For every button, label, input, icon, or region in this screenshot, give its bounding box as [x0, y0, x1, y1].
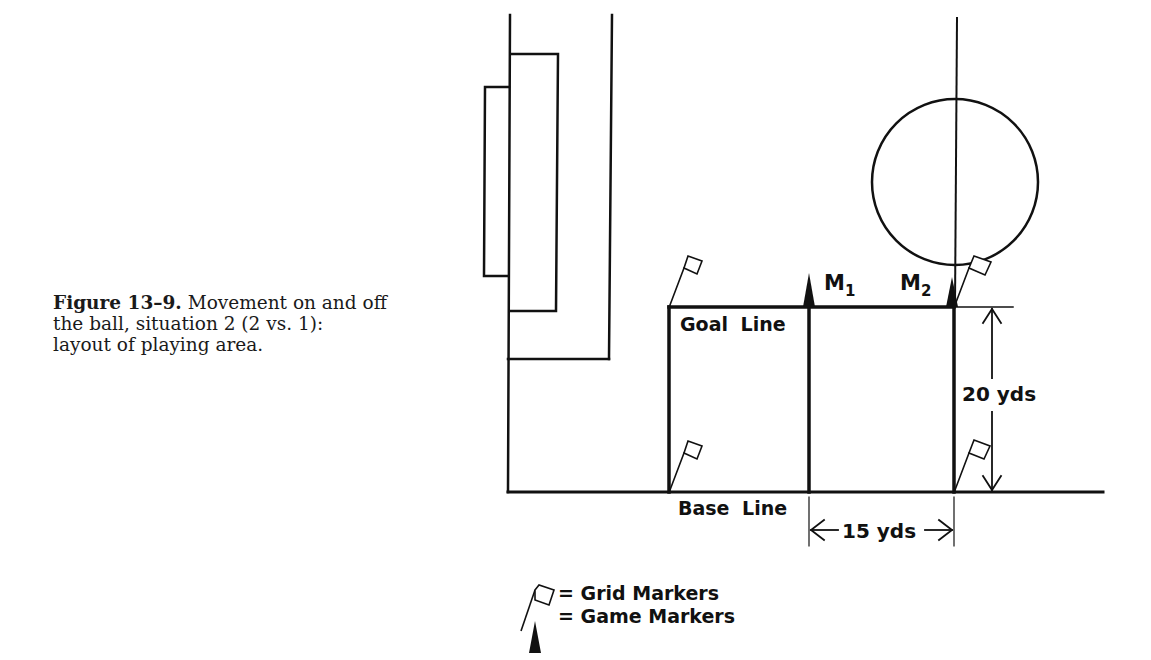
field-outline — [484, 15, 612, 492]
width-dimension-label: 15 yds — [842, 519, 916, 543]
base-line-label: Base Line — [678, 497, 787, 519]
legend-game-markers: = Game Markers — [558, 605, 735, 627]
grid-marker-flag-icon — [955, 440, 990, 490]
height-dimension-label: 20 yds — [962, 382, 1036, 406]
marker-1-label: M1 — [824, 271, 855, 300]
grid-marker-flag-icon — [670, 256, 702, 305]
legend-grid-markers: = Grid Markers — [558, 582, 719, 604]
center-line — [955, 18, 957, 307]
marker-2-label: M2 — [900, 271, 931, 300]
legend-grid-marker-flag-icon — [521, 585, 554, 631]
playing-area-diagram: M1 M2 Goal Line Base Line 15 yds 20 yds — [0, 0, 1151, 660]
game-marker-cone-icon — [946, 277, 958, 307]
goal-line-label: Goal Line — [680, 313, 786, 335]
grid-marker-flag-icon — [955, 256, 991, 305]
grid-marker-flag-icon — [670, 441, 702, 490]
game-marker-cone-icon — [803, 273, 815, 307]
legend-game-marker-cone-icon — [529, 621, 541, 653]
